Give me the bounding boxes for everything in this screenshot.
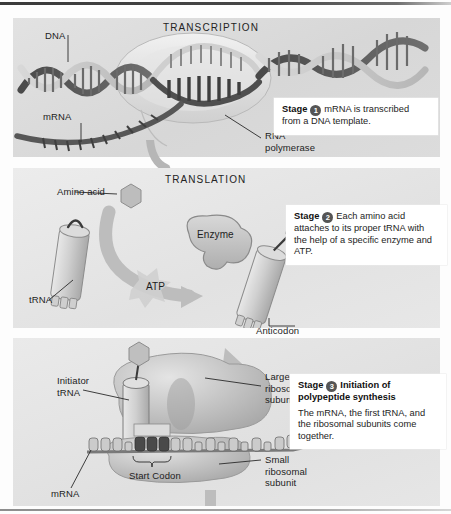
label-mrna-ribosome: mRNA <box>51 488 79 500</box>
label-amino-acid: Amino acid <box>57 186 105 198</box>
stage-1-badge: 1 <box>310 105 321 116</box>
label-mrna: mRNA <box>43 111 71 123</box>
stage-2-badge: 2 <box>322 212 333 223</box>
stage-3-callout: Stage3Initiation of polypeptide synthesi… <box>290 374 446 449</box>
label-trna: tRNA <box>29 294 52 306</box>
stage-2-word: Stage <box>294 211 319 221</box>
bottom-divider-rule <box>0 509 451 511</box>
label-anticodon: Anticodon <box>256 325 299 337</box>
stage-3-body: The mRNA, the first tRNA, and the riboso… <box>298 408 438 443</box>
transcription-artwork <box>13 18 440 157</box>
label-dna: DNA <box>45 30 65 42</box>
label-initiator-trna: Initiator tRNA <box>57 375 89 398</box>
stage-1-callout: Stage1mRNA is transcribed from a DNA tem… <box>274 98 438 135</box>
top-divider-rule <box>0 2 451 5</box>
label-start-codon: Start Codon <box>129 470 181 482</box>
section-label-transcription: TRANSCRIPTION <box>163 22 259 34</box>
stage-1-word: Stage <box>282 104 307 114</box>
label-enzyme: Enzyme <box>197 229 234 241</box>
label-small-ribosomal-subunit: Small ribosomal subunit <box>265 454 307 489</box>
stage-2-callout: Stage2Each amino acid attaches to its pr… <box>286 205 447 265</box>
panel-transcription: TRANSCRIPTION DNA mRNA RNA polymerase <box>13 18 440 157</box>
label-atp: ATP <box>146 281 165 293</box>
stage-3-badge: 3 <box>326 381 337 392</box>
stage-3-word: Stage <box>298 380 323 390</box>
figure-canvas: TRANSCRIPTION DNA mRNA RNA polymerase St… <box>0 0 451 514</box>
section-label-translation: TRANSLATION <box>165 174 246 186</box>
